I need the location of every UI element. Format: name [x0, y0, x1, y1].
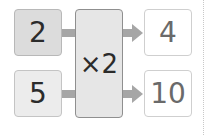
output-value-1: 4 [159, 19, 177, 47]
input-value-1: 2 [29, 19, 47, 47]
input-box-1: 2 [14, 9, 62, 56]
input-value-2: 5 [29, 80, 47, 108]
output-box-1: 4 [144, 9, 192, 56]
output-value-2: 10 [150, 80, 186, 108]
arrow-right-icon [132, 24, 143, 42]
operation-box: ×2 [75, 9, 123, 118]
operation-label: ×2 [80, 51, 118, 77]
input-connector-1 [62, 29, 75, 37]
dotted-divider [203, 0, 204, 135]
arrow-right-icon [132, 85, 143, 103]
output-box-2: 10 [144, 70, 192, 117]
input-connector-2 [62, 90, 75, 98]
input-box-2: 5 [14, 70, 62, 117]
